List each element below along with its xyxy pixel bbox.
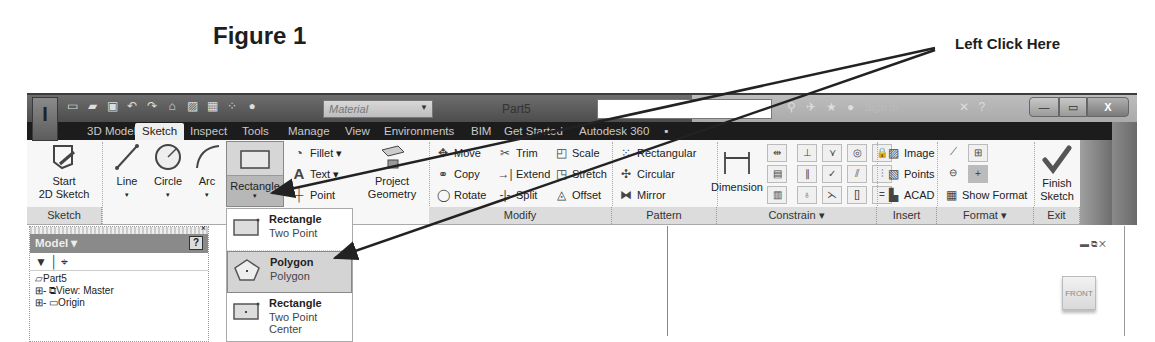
browser-header[interactable]: Model ▾ ? — [30, 234, 208, 253]
search-icon[interactable]: ⚲ — [787, 100, 796, 114]
scale-button[interactable]: ◰Scale — [553, 145, 600, 161]
stretch-button[interactable]: ◳Stretch — [553, 166, 607, 182]
constraint-settings-icon[interactable]: ▤ — [767, 165, 787, 183]
point-button[interactable]: ┼Point — [291, 187, 335, 203]
dimension-button[interactable]: Dimension — [707, 148, 767, 194]
offset-button[interactable]: ◬Offset — [553, 187, 601, 203]
menu-item-polygon[interactable]: Polygon Polygon — [227, 251, 352, 293]
satellite-icon[interactable]: ✈ — [806, 100, 816, 114]
project-geometry-button[interactable]: ProjectGeometry — [362, 142, 422, 201]
image-icon[interactable]: ▨ — [185, 100, 199, 113]
minimize-icon[interactable]: ▬ — [1080, 239, 1091, 249]
tab-view[interactable]: View — [338, 123, 377, 140]
tab-environments[interactable]: Environments — [377, 123, 461, 140]
close-button[interactable]: X — [1087, 97, 1129, 117]
tree-item-part[interactable]: ▱Part5 — [35, 273, 203, 285]
tab-manage[interactable]: Manage — [281, 123, 337, 140]
tab-bim[interactable]: BIM — [464, 123, 498, 140]
undo-icon[interactable]: ↶ — [125, 100, 139, 113]
menu-item-rectangle-two-point[interactable]: Rectangle Two Point — [227, 209, 352, 251]
favorites-icon[interactable]: ★ — [826, 100, 837, 114]
panel-title-constrain[interactable]: Constrain ▾ — [717, 207, 877, 224]
auto-dimension-icon[interactable]: ⇹ — [767, 144, 787, 162]
show-format-icon: ▦ — [943, 188, 959, 202]
tab-3d-model[interactable]: 3D Model — [80, 123, 143, 140]
sign-in-link[interactable]: Sign In — [864, 101, 898, 113]
panel-title-format[interactable]: Format ▾ — [937, 207, 1034, 224]
restore-icon[interactable]: ⧉ — [1091, 239, 1099, 249]
tab-tools[interactable]: Tools — [235, 123, 276, 140]
coincident-icon[interactable]: ⋎ — [822, 144, 842, 162]
save-icon[interactable]: ▣ — [105, 100, 119, 113]
quick-access-toolbar: ▭ ▰ ▣ ↶ ↷ ⌂ ▨ ▦ ⁘ ● — [65, 100, 259, 113]
tab-get-started[interactable]: Get Started — [497, 123, 570, 140]
material-dropdown[interactable]: Material▼ — [323, 100, 433, 118]
move-button[interactable]: ✥Move — [435, 145, 481, 161]
show-constraints-icon[interactable]: ▥ — [767, 186, 787, 204]
viewcube[interactable]: FRONT — [1062, 276, 1096, 310]
help-icon[interactable]: ? — [189, 236, 203, 250]
mirror-button[interactable]: ⧓Mirror — [618, 187, 666, 203]
mirror-icon: ⧓ — [618, 188, 634, 202]
text-button[interactable]: AText ▾ — [291, 166, 339, 182]
construction-icon[interactable]: ⟋ — [943, 144, 963, 162]
tab-sketch[interactable]: Sketch — [135, 123, 184, 140]
parallel-icon[interactable]: ∥ — [797, 165, 817, 183]
show-format-button[interactable]: ▦Show Format — [943, 187, 1027, 203]
smooth-icon[interactable]: ♁ — [797, 186, 817, 204]
application-menu-button[interactable]: I — [32, 97, 58, 141]
fillet-button[interactable]: ◔Fillet ▾ — [291, 145, 342, 161]
home-icon[interactable]: ⌂ — [165, 100, 179, 113]
circular-pattern-button[interactable]: ✣Circular — [618, 166, 675, 182]
symmetric-icon[interactable]: [] — [847, 186, 867, 204]
points-button[interactable]: ▧Points — [885, 166, 935, 182]
horizontal-icon[interactable]: ⫽ — [847, 165, 867, 183]
rotate-button[interactable]: ◯Rotate — [435, 187, 486, 203]
tangent-icon[interactable]: ✓ — [822, 165, 842, 183]
ribbon-options-icon[interactable]: ▪ — [657, 123, 675, 140]
open-icon[interactable]: ▰ — [85, 100, 99, 113]
tree-item-origin[interactable]: ⊞- ▭Origin — [35, 297, 203, 309]
filter-icon[interactable]: ▼ — [35, 255, 47, 269]
search-input[interactable] — [597, 99, 772, 119]
minimize-button[interactable]: — — [1029, 97, 1059, 117]
menu-item-rectangle-center[interactable]: Rectangle Two Point Center — [227, 293, 352, 335]
image-icon: ▨ — [885, 146, 901, 160]
tab-inspect[interactable]: Inspect — [183, 123, 234, 140]
centerline-icon[interactable]: ⊖ — [943, 165, 963, 183]
collinear-icon[interactable]: ⋋ — [822, 186, 842, 204]
close-icon[interactable]: × — [201, 223, 206, 233]
arc-button[interactable]: Arc▾ — [191, 142, 223, 201]
line-icon — [111, 142, 143, 172]
update-icon[interactable]: ▦ — [205, 100, 219, 113]
help-icon[interactable]: ? — [979, 100, 986, 114]
trim-button[interactable]: ✂Trim — [497, 145, 538, 161]
exchange-icon[interactable]: ✕ — [959, 100, 969, 114]
close-icon[interactable]: ✕ — [1099, 239, 1108, 249]
extend-button[interactable]: →|Extend — [497, 166, 550, 182]
redo-icon[interactable]: ↷ — [145, 100, 159, 113]
select-icon[interactable]: ⁘ — [225, 100, 239, 113]
new-icon[interactable]: ▭ — [65, 100, 79, 113]
center-point-icon[interactable]: + — [968, 165, 988, 183]
start-2d-sketch-button[interactable]: Start2D Sketch — [33, 142, 95, 201]
rectangle-button[interactable]: Rectangle▾ — [226, 141, 284, 207]
tab-autodesk-360[interactable]: Autodesk 360 — [572, 123, 656, 140]
user-icon[interactable]: ● — [847, 100, 854, 114]
tree-item-view[interactable]: ⊞- ⧉View: Master — [35, 285, 203, 297]
appearance-icon[interactable]: ● — [245, 100, 259, 113]
rectangular-pattern-button[interactable]: ⁙Rectangular — [618, 145, 696, 161]
copy-button[interactable]: ⚭Copy — [435, 166, 480, 182]
text-icon: A — [291, 167, 307, 181]
circle-button[interactable]: Circle▾ — [148, 142, 188, 201]
split-button[interactable]: -|-Split — [497, 187, 537, 203]
concentric-icon[interactable]: ◎ — [847, 144, 867, 162]
perpendicular-icon[interactable]: ⊥ — [797, 144, 817, 162]
finish-sketch-button[interactable]: FinishSketch — [1037, 144, 1077, 203]
maximize-button[interactable]: ▭ — [1059, 97, 1087, 117]
binoculars-icon[interactable]: ⌖ — [61, 255, 68, 269]
image-button[interactable]: ▨Image — [885, 145, 935, 161]
acad-button[interactable]: ▙ACAD — [885, 187, 935, 203]
line-button[interactable]: Line▾ — [109, 142, 145, 201]
driven-dimension-icon[interactable]: ⊞ — [968, 144, 988, 162]
